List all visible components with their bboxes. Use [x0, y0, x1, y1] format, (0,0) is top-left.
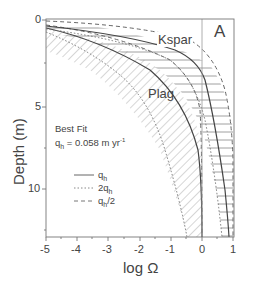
x-tick--4: -4: [71, 243, 81, 255]
y-tick-5: 5: [35, 100, 41, 112]
x-tick--5: -5: [40, 243, 50, 255]
legend-qh: qh: [98, 169, 107, 182]
x-tick-0: 0: [199, 243, 205, 255]
x-ticks: [46, 237, 233, 241]
plag-label: Plag: [147, 86, 175, 101]
x-tick--2: -2: [134, 243, 144, 255]
y-tick-0: 0: [35, 13, 41, 25]
panel-label: A: [214, 22, 225, 42]
x-tick--3: -3: [102, 243, 112, 255]
kspar-label: Kspar: [157, 32, 193, 47]
legend-half-qh: qh/2: [98, 195, 115, 208]
best-fit-value: qh = 0.058 m yr-1: [55, 137, 125, 150]
y-axis-label: Depth (m): [10, 118, 27, 185]
legend-2qh: 2qh: [98, 182, 112, 195]
x-tick--1: -1: [165, 243, 175, 255]
x-tick-1: 1: [230, 243, 236, 255]
x-axis-label: log Ω: [123, 259, 158, 276]
best-fit-label: Best Fit: [55, 123, 87, 134]
y-tick-10: 10: [28, 182, 40, 194]
chart-plot: [0, 0, 253, 291]
y-ticks: [42, 20, 46, 230]
